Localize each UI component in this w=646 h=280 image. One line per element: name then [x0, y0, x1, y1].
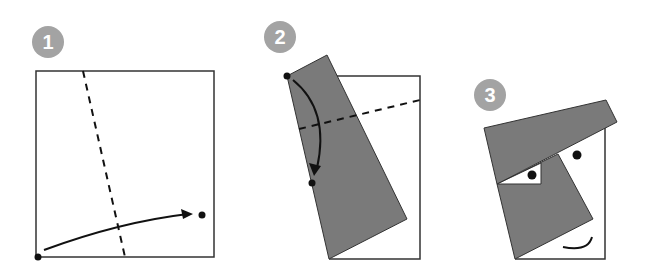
paper-square	[36, 71, 214, 257]
step-2-badge: 2	[264, 21, 296, 53]
target-dot	[199, 212, 206, 219]
step-1-badge: 1	[32, 26, 64, 58]
step-3-badge: 3	[474, 79, 506, 111]
step-number: 3	[484, 84, 495, 106]
start-dot	[35, 254, 42, 261]
step-1: 1	[32, 26, 214, 261]
target-dot	[309, 180, 316, 187]
step-2: 2	[264, 21, 420, 259]
step-number: 2	[274, 26, 285, 48]
step-3: 3	[474, 79, 617, 259]
step-number: 1	[42, 31, 53, 53]
right-eye	[573, 151, 582, 160]
origami-diagram: 1 2 3	[0, 0, 646, 280]
left-eye	[528, 171, 537, 180]
start-dot	[284, 73, 291, 80]
